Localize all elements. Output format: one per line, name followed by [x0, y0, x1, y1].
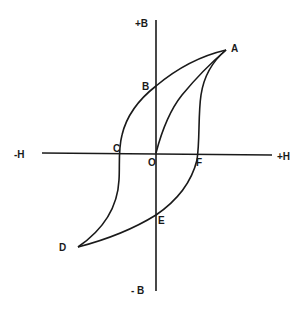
point-label-d: D: [59, 242, 66, 253]
point-label-c: C: [113, 143, 120, 154]
point-label-f: F: [196, 157, 202, 168]
axis-label-positive-h: +H: [277, 151, 290, 162]
point-label-b: B: [142, 81, 149, 92]
hysteresis-diagram: +B - B -H +H O A B C D E F: [0, 0, 302, 311]
axis-label-positive-b: +B: [135, 18, 148, 29]
initial-magnetization-curve: [156, 50, 226, 153]
point-label-e: E: [158, 215, 165, 226]
axis-label-negative-h: -H: [14, 149, 25, 160]
h-axis: [42, 153, 272, 155]
origin-label: O: [148, 157, 156, 168]
ascending-branch-curve: [78, 50, 226, 247]
axis-label-negative-b: - B: [131, 285, 144, 296]
point-label-a: A: [231, 43, 238, 54]
